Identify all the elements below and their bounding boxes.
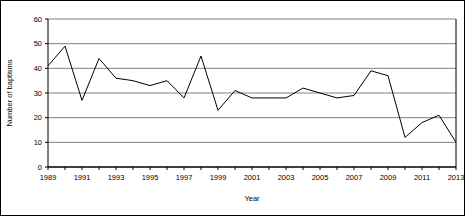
y-tick-label-0: 0 bbox=[38, 163, 42, 172]
x-tick-label-1999: 1999 bbox=[210, 173, 227, 182]
gridlines-group bbox=[48, 19, 456, 167]
x-ticks-group: 1989199119931995199719992001200320052007… bbox=[40, 167, 465, 182]
x-tick-label-1989: 1989 bbox=[40, 173, 57, 182]
x-tick-label-2001: 2001 bbox=[244, 173, 261, 182]
x-tick-label-1991: 1991 bbox=[74, 173, 91, 182]
y-ticks-group: 0102030405060 bbox=[34, 15, 48, 172]
line-chart: 0102030405060198919911993199519971999200… bbox=[1, 1, 465, 216]
chart-figure: 0102030405060198919911993199519971999200… bbox=[0, 0, 465, 216]
y-tick-label-60: 60 bbox=[34, 15, 42, 24]
y-tick-label-20: 20 bbox=[34, 113, 42, 122]
x-tick-label-1997: 1997 bbox=[176, 173, 193, 182]
x-tick-label-2003: 2003 bbox=[278, 173, 295, 182]
x-tick-label-2007: 2007 bbox=[346, 173, 363, 182]
x-tick-label-1993: 1993 bbox=[108, 173, 125, 182]
y-tick-label-30: 30 bbox=[34, 89, 42, 98]
y-tick-label-40: 40 bbox=[34, 64, 42, 73]
x-tick-label-2011: 2011 bbox=[414, 173, 430, 182]
y-tick-label-50: 50 bbox=[34, 39, 42, 48]
x-axis-title: Year bbox=[244, 194, 260, 203]
data-line-number-of-baptisms bbox=[48, 46, 456, 142]
x-tick-label-1995: 1995 bbox=[142, 173, 159, 182]
x-tick-label-2009: 2009 bbox=[380, 173, 397, 182]
x-tick-label-2005: 2005 bbox=[312, 173, 329, 182]
y-axis-title: Number of baptisms bbox=[5, 59, 14, 126]
x-tick-label-2013: 2013 bbox=[448, 173, 465, 182]
y-tick-label-10: 10 bbox=[34, 138, 42, 147]
